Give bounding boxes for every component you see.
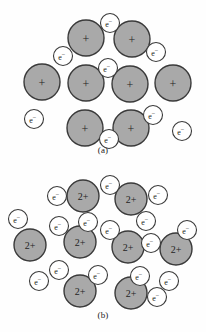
electron-charge-superscript: − [58, 221, 62, 228]
electron-charge-superscript: − [109, 18, 113, 25]
electron-charge-superscript: − [58, 265, 62, 272]
electron-b-1: e− [48, 187, 67, 206]
electron-charge-superscript: − [152, 110, 156, 117]
cation-label: 2+ [78, 191, 89, 202]
electron-b-4: e− [9, 210, 28, 229]
electron-b-10: e− [178, 221, 197, 240]
cation-a-7: + [67, 110, 103, 146]
cation-label: + [83, 77, 90, 91]
figure-container: ++++++++e−e−e−e−e−e−e−e− (a) 2+2+2+2+2+2… [0, 0, 206, 332]
electron-charge-superscript: − [109, 225, 113, 232]
electron-charge-superscript: − [38, 276, 42, 283]
panel-b: 2+2+2+2+2+2+2+2+e−e−e−e−e−e−e−e−e−e−e−e−… [0, 166, 206, 332]
electron-a-8: e− [173, 122, 192, 141]
cation-label: 2+ [123, 242, 134, 253]
cation-label: 2+ [75, 237, 86, 248]
cation-label: + [39, 76, 46, 90]
cation-a-3: + [24, 64, 60, 100]
electron-charge-superscript: − [33, 114, 37, 121]
electron-charge-superscript: − [107, 63, 111, 70]
electron-b-5: e− [50, 217, 69, 236]
electron-charge-superscript: − [156, 292, 160, 299]
cation-label: 2+ [25, 240, 36, 251]
cation-label: 2+ [171, 244, 182, 255]
electron-charge-superscript: − [97, 270, 101, 277]
cation-label: + [129, 33, 136, 47]
electron-charge-superscript: − [109, 180, 113, 187]
electron-a-4: e− [99, 59, 118, 78]
cation-label: + [128, 122, 135, 136]
electron-charge-superscript: − [108, 134, 112, 141]
cation-a-1: + [68, 20, 104, 56]
panel-a-diagram: ++++++++e−e−e−e−e−e−e−e− [0, 0, 206, 166]
electron-charge-superscript: − [168, 276, 172, 283]
panel-b-caption: (b) [0, 310, 206, 320]
electron-a-6: e− [144, 106, 163, 125]
electron-charge-superscript: − [157, 190, 161, 197]
electron-charge-superscript: − [56, 191, 60, 198]
electron-a-3: e− [147, 43, 166, 62]
electron-b-14: e− [131, 267, 150, 286]
electron-b-8: e− [137, 212, 156, 231]
cation-label: + [127, 78, 134, 92]
panel-a: ++++++++e−e−e−e−e−e−e−e− [0, 0, 206, 166]
electron-b-11: e− [50, 261, 69, 280]
electron-charge-superscript: − [181, 126, 185, 133]
cation-b-1: 2+ [67, 180, 99, 212]
electron-a-5: e− [25, 110, 44, 129]
cation-b-2: 2+ [115, 183, 147, 215]
electron-b-7: e− [101, 221, 120, 240]
electron-b-3: e− [149, 186, 168, 205]
electron-b-6: e− [79, 213, 98, 232]
cation-label: + [83, 32, 90, 46]
cation-a-6: + [155, 65, 191, 101]
electron-b-16: e− [148, 288, 167, 307]
panel-a-caption: (a) [0, 145, 206, 155]
cation-b-3: 2+ [14, 229, 46, 261]
electron-charge-superscript: − [17, 214, 21, 221]
electron-charge-superscript: − [62, 51, 66, 58]
electron-a-2: e− [54, 47, 73, 66]
electron-charge-superscript: − [186, 225, 190, 232]
electron-charge-superscript: − [155, 47, 159, 54]
cation-label: + [170, 77, 177, 91]
electron-b-12: e− [30, 272, 49, 291]
cation-label: 2+ [126, 194, 137, 205]
electron-charge-superscript: − [139, 271, 143, 278]
panel-b-diagram: 2+2+2+2+2+2+2+2+e−e−e−e−e−e−e−e−e−e−e−e−… [0, 166, 206, 332]
electron-b-9: e− [142, 234, 161, 253]
electron-b-2: e− [101, 176, 120, 195]
electron-a-1: e− [101, 14, 120, 33]
electron-charge-superscript: − [87, 217, 91, 224]
electron-charge-superscript: − [150, 238, 154, 245]
cation-label: + [82, 122, 89, 136]
electron-b-15: e− [160, 272, 179, 291]
electron-charge-superscript: − [145, 216, 149, 223]
cation-label: 2+ [126, 288, 137, 299]
cation-label: 2+ [75, 286, 86, 297]
electron-b-13: e− [89, 266, 108, 285]
